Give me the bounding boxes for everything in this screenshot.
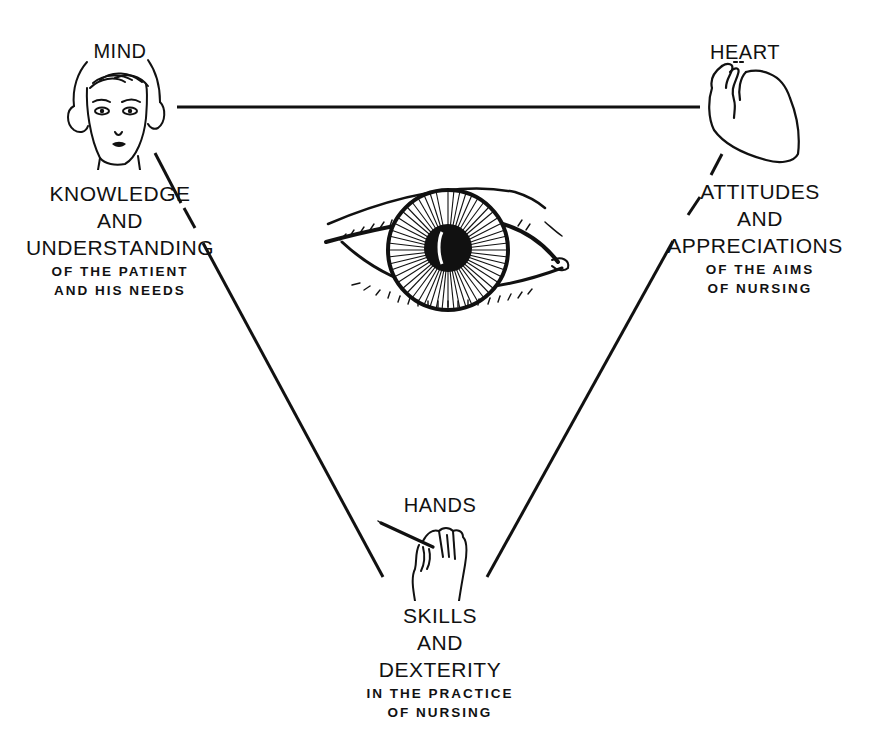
heart-line3: APPRECIATIONS — [650, 234, 860, 258]
mind-line2: AND — [20, 209, 220, 233]
mind-line1: KNOWLEDGE — [20, 182, 220, 206]
mind-sub2: AND HIS NEEDS — [20, 283, 220, 298]
mind-description: KNOWLEDGE AND UNDERSTANDING OF THE PATIE… — [20, 182, 220, 298]
heart-organ-icon — [700, 58, 810, 168]
eye-icon — [300, 180, 580, 320]
nursing-triangle-diagram: MIND — [0, 0, 870, 750]
hands-sub2: OF NURSING — [335, 705, 545, 720]
heart-sub2: OF NURSING — [650, 281, 860, 296]
hands-title: HANDS — [390, 495, 490, 515]
mind-line3: UNDERSTANDING — [20, 236, 220, 260]
hands-description: SKILLS AND DEXTERITY IN THE PRACTICE OF … — [335, 604, 545, 720]
hands-sub1: IN THE PRACTICE — [335, 686, 545, 701]
hands-line1: SKILLS — [335, 604, 545, 628]
heart-description: ATTITUDES AND APPRECIATIONS OF THE AIMS … — [650, 180, 860, 296]
hands-line3: DEXTERITY — [335, 658, 545, 682]
mind-sub1: OF THE PATIENT — [20, 264, 220, 279]
heart-line1: ATTITUDES — [650, 180, 860, 204]
heart-sub1: OF THE AIMS — [650, 262, 860, 277]
hand-holding-instrument-icon — [375, 517, 475, 601]
hands-line2: AND — [335, 631, 545, 655]
woman-face-icon — [60, 58, 170, 170]
heart-line2: AND — [650, 207, 860, 231]
